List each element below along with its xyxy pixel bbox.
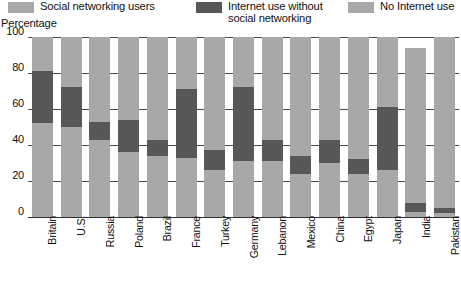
- bar-segment-2: [118, 37, 139, 120]
- chart-legend: Social networking users Internet use wit…: [0, 0, 459, 26]
- y-tick-0: 0: [0, 206, 24, 217]
- bar-segment-1: [319, 140, 340, 163]
- bar-segment-1: [32, 71, 53, 123]
- bar-segment-2: [147, 37, 168, 140]
- bar-segment-0: [348, 174, 369, 217]
- x-tick-egypt: Egypt: [362, 216, 374, 278]
- x-tick-poland: Poland: [133, 216, 145, 278]
- bar-segment-1: [262, 140, 283, 162]
- y-tick-40: 40: [0, 134, 24, 145]
- x-tick-germany: Germany: [248, 216, 260, 278]
- y-tick-100: 100: [0, 26, 24, 37]
- bar-segment-2: [348, 37, 369, 159]
- bar-segment-0: [89, 140, 110, 217]
- plot-area: [28, 37, 459, 217]
- y-tick-60: 60: [0, 98, 24, 109]
- x-tick-india: India: [420, 216, 432, 278]
- bar-segment-2: [290, 37, 311, 156]
- x-tick-pakistan: Pakistan: [449, 216, 461, 278]
- x-tick-turkey: Turkey: [219, 216, 231, 278]
- bar-segment-1: [348, 159, 369, 173]
- legend-label-internet-use-without-social-networking: Internet use without social networking: [228, 1, 323, 24]
- bar-segment-0: [377, 170, 398, 217]
- bar-segment-0: [176, 158, 197, 217]
- x-tick-france: France: [190, 216, 202, 278]
- bar-segment-1: [204, 150, 225, 170]
- bar-segment-2: [176, 37, 197, 89]
- x-tick-lebanon: Lebanon: [276, 216, 288, 278]
- bar-segment-2: [262, 37, 283, 140]
- bar-segment-0: [290, 174, 311, 217]
- y-tick-20: 20: [0, 170, 24, 181]
- bar-segment-2: [61, 37, 82, 87]
- legend-swatch-no-internet-use: [348, 2, 374, 13]
- legend-item-no-internet-use: No Internet use: [348, 1, 454, 13]
- legend-swatch-social-networking-users: [8, 2, 34, 13]
- bar-segment-2: [377, 37, 398, 107]
- legend-item-social-networking-users: Social networking users: [8, 1, 155, 13]
- bar-segment-1: [61, 87, 82, 127]
- bar-segment-0: [262, 161, 283, 217]
- bar-segment-2: [204, 37, 225, 150]
- bar-segment-0: [233, 161, 254, 217]
- bar-segment-0: [147, 156, 168, 217]
- bar-segment-1: [176, 89, 197, 157]
- bar-segment-1: [405, 203, 426, 212]
- bar-segment-2: [319, 37, 340, 140]
- x-tick-us: U.S.: [75, 216, 87, 278]
- bar-segment-2: [89, 37, 110, 122]
- bar-segment-2: [233, 37, 254, 87]
- bar-segment-0: [319, 163, 340, 217]
- bar-segment-2: [405, 48, 426, 203]
- x-tick-china: China: [334, 216, 346, 278]
- bar-segment-1: [118, 120, 139, 152]
- bar-segment-0: [32, 123, 53, 217]
- bar-segment-0: [118, 152, 139, 217]
- bar-segment-2: [32, 37, 53, 71]
- legend-item-internet-use-without-social-networking: Internet use without social networking: [196, 1, 323, 24]
- bar-series-container: [28, 37, 459, 217]
- bar-segment-0: [204, 170, 225, 217]
- bar-segment-1: [233, 87, 254, 161]
- bar-segment-2: [434, 37, 455, 208]
- bar-segment-0: [61, 127, 82, 217]
- x-axis-tick-labels: BritainU.S.RussiaPolandBrazilFranceTurke…: [28, 218, 459, 280]
- legend-label-social-networking-users: Social networking users: [40, 1, 155, 13]
- x-tick-brazil: Brazil: [161, 216, 173, 278]
- bar-segment-1: [377, 107, 398, 170]
- x-tick-britain: Britain: [46, 216, 58, 278]
- bar-segment-1: [147, 140, 168, 156]
- x-tick-mexico: Mexico: [305, 216, 317, 278]
- y-tick-80: 80: [0, 62, 24, 73]
- bar-segment-1: [290, 156, 311, 174]
- legend-label-no-internet-use: No Internet use: [380, 1, 454, 13]
- x-tick-japan: Japan: [391, 216, 403, 278]
- bar-segment-1: [89, 122, 110, 140]
- bar-segment-1: [434, 208, 455, 213]
- x-tick-russia: Russia: [104, 216, 116, 278]
- legend-swatch-internet-use-without-social-networking: [196, 2, 222, 13]
